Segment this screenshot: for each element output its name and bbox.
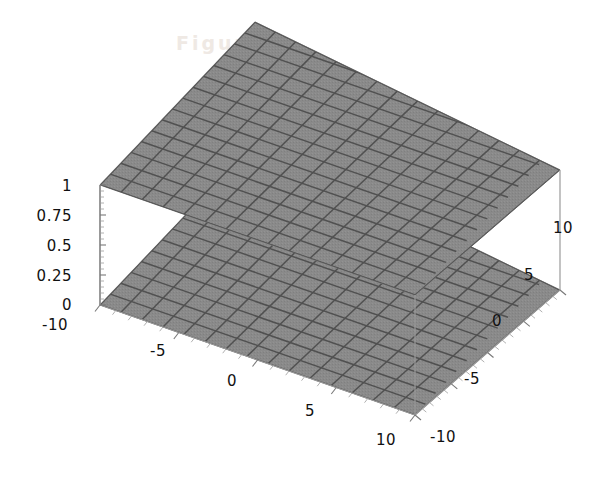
x-tick-label: 0 (227, 372, 237, 390)
x-tick-label: 5 (305, 402, 315, 420)
plot-canvas (0, 0, 597, 477)
x-tick-label: 10 (376, 431, 396, 449)
x-tick-label: -10 (42, 316, 68, 334)
z-tick-label: 0 (62, 296, 72, 314)
z-tick-label: 0.25 (37, 267, 72, 285)
z-tick-label: 1 (62, 177, 72, 195)
z-axis (100, 185, 106, 305)
surface-plot-3d: Figure (0, 0, 597, 477)
y-tick-label: -10 (430, 428, 456, 446)
z-tick-label: 0.5 (47, 237, 72, 255)
x-tick-label: -5 (150, 342, 166, 360)
y-tick-label: 5 (524, 266, 534, 284)
z-tick-label: 0.75 (37, 207, 72, 225)
y-tick-label: 10 (553, 219, 573, 237)
y-tick-label: 0 (492, 312, 502, 330)
y-tick-label: -5 (464, 370, 480, 388)
